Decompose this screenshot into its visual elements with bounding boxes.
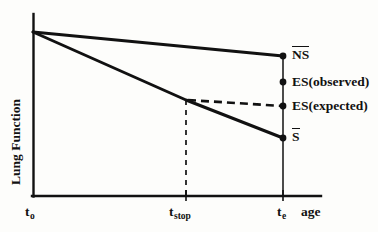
t0-base: t (25, 204, 30, 219)
series-label-s-text: S (292, 130, 300, 144)
series-label-ns-text: NS (292, 48, 309, 62)
series-label-s: S (292, 130, 300, 144)
figure: Lung Function NS ES(observed) ES(expecte… (0, 0, 378, 232)
marker-es-expected (280, 103, 287, 110)
series-label-ns: NS (292, 48, 309, 62)
series-label-es-observed: ES(observed) (292, 75, 369, 89)
marker-s (280, 135, 287, 142)
series-line-ns (33, 32, 283, 56)
series-line-s (33, 32, 283, 138)
line-chart-canvas (0, 0, 378, 232)
x-tick-label-te: te (277, 205, 286, 219)
y-axis-title: Lung Function (8, 99, 24, 185)
marker-ns (280, 53, 287, 60)
tstop-subscript: stop (174, 211, 191, 221)
tstop-base: t (169, 204, 174, 219)
te-base: t (277, 204, 282, 219)
x-axis-title: age (301, 205, 321, 219)
series-label-es-expected: ES(expected) (292, 99, 368, 113)
x-tick-label-t0: to (25, 205, 34, 219)
x-tick-label-tstop: tstop (169, 205, 190, 219)
te-subscript: e (282, 211, 286, 221)
t0-subscript: o (30, 211, 35, 221)
marker-es-observed (280, 79, 287, 86)
